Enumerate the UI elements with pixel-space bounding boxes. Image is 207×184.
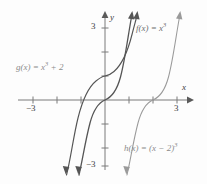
x-axis-arrow-icon (187, 97, 194, 104)
function-label-f-exponent: 3 (163, 21, 166, 28)
curve-h-arrow-bottom-icon (123, 166, 130, 175)
function-label-h-text: h(x) = (x − 2) (124, 143, 174, 153)
function-label-h-exponent: 3 (174, 141, 177, 148)
function-label-h: h(x) = (x − 2)3 (124, 141, 177, 153)
curve-h-arrow-top-icon (176, 11, 182, 20)
y-tick-label-3: 3 (91, 21, 96, 31)
y-axis-arrow-icon (102, 11, 109, 18)
function-label-g-text: g(x) = x (16, 62, 45, 72)
cubic-functions-graph: x y −3 3 3 −3 f(x) = x3 g(x) = x3 + 2 h(… (0, 0, 207, 184)
x-tick-label-3: 3 (174, 103, 179, 113)
curve-f-arrow-top-icon (128, 11, 134, 20)
curve-g-arrow-top-icon (133, 11, 139, 20)
function-label-g-tail: + 2 (48, 62, 63, 72)
y-tick-label-neg3: −3 (86, 159, 96, 169)
x-tick-label-neg3: −3 (26, 103, 36, 113)
curve-g-arrow-bottom-icon (63, 166, 70, 175)
x-axis-label: y (110, 12, 114, 22)
function-label-f: f(x) = x3 (136, 21, 166, 33)
function-label-g: g(x) = x3 + 2 (16, 60, 63, 72)
function-label-f-text: f(x) = x (136, 23, 163, 33)
curve-f-arrow-bottom-icon (75, 166, 82, 175)
graph-canvas (0, 0, 207, 184)
y-axis-label: x (182, 82, 186, 92)
